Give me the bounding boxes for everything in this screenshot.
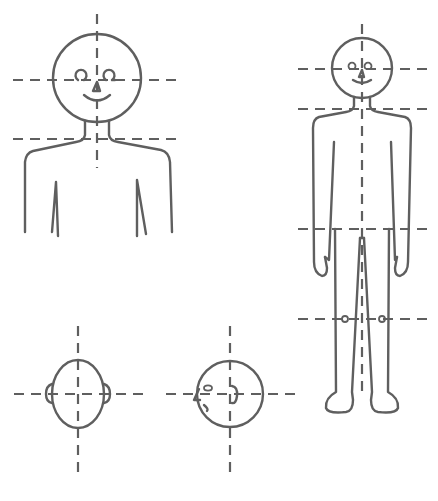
left-knee-marker bbox=[342, 316, 348, 322]
body-right-arm-inner bbox=[391, 142, 397, 260]
bust-right-eye bbox=[104, 70, 116, 80]
bust-right-shoulder bbox=[109, 121, 172, 232]
body-nose bbox=[359, 70, 364, 77]
bust-right-arm-inner bbox=[137, 180, 146, 236]
body-right-leg bbox=[364, 229, 398, 413]
bust-left-arm-inner bbox=[52, 182, 58, 236]
head-side-eye bbox=[204, 385, 212, 390]
bust-mouth bbox=[84, 95, 110, 101]
body-right-arm-outer bbox=[370, 97, 411, 276]
bust-left-eye bbox=[76, 70, 87, 80]
bust-front-figure bbox=[13, 14, 183, 236]
head-side-mouth bbox=[204, 405, 208, 411]
bust-left-shoulder bbox=[25, 121, 85, 232]
head-top-view-figure bbox=[14, 326, 146, 478]
head-side-view-figure bbox=[166, 326, 296, 478]
body-left-arm-outer bbox=[313, 97, 354, 276]
body-left-arm-inner bbox=[325, 142, 334, 260]
proportion-diagram bbox=[0, 0, 438, 501]
full-body-figure bbox=[298, 24, 428, 413]
right-knee-marker bbox=[379, 316, 385, 322]
